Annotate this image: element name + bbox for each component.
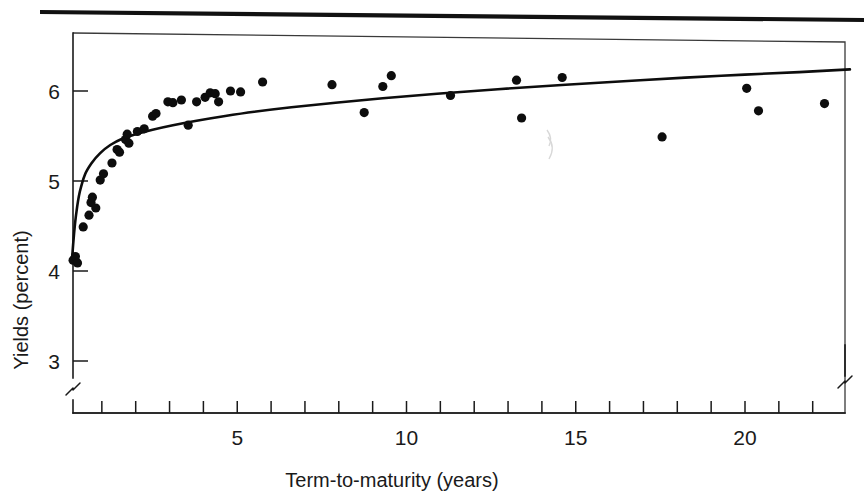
page-rule-top xyxy=(40,12,864,20)
data-point xyxy=(99,169,108,178)
data-point xyxy=(184,121,193,130)
y-axis-break-icon xyxy=(66,383,80,395)
x-tick-label-5: 5 xyxy=(231,426,243,449)
data-point xyxy=(258,77,267,86)
data-point xyxy=(754,106,763,115)
data-point xyxy=(88,193,97,202)
data-point xyxy=(558,73,567,82)
data-point xyxy=(387,71,396,80)
x-tick-group xyxy=(102,401,813,413)
data-point xyxy=(115,148,124,157)
data-point xyxy=(742,84,751,93)
data-point xyxy=(226,86,235,95)
y-tick-label-5: 5 xyxy=(48,170,60,193)
data-point xyxy=(211,89,220,98)
y-tick-label-6: 6 xyxy=(48,80,60,103)
data-point xyxy=(177,95,186,104)
x-axis-title: Term-to-maturity (years) xyxy=(285,469,498,491)
data-point xyxy=(517,113,526,122)
data-point xyxy=(168,98,177,107)
data-point xyxy=(360,108,369,117)
x-tick-label-20: 20 xyxy=(733,426,756,449)
y-tick-label-3: 3 xyxy=(48,350,60,373)
data-point xyxy=(91,203,100,212)
data-point xyxy=(107,158,116,167)
plot-frame xyxy=(73,33,845,413)
x-tick-label-15: 15 xyxy=(564,426,587,449)
data-point xyxy=(124,139,133,148)
data-point xyxy=(327,80,336,89)
fitted-yield-curve xyxy=(72,69,850,258)
x-tick-label-10: 10 xyxy=(395,426,418,449)
data-point xyxy=(84,211,93,220)
data-point xyxy=(512,76,521,85)
yield-curve-chart: 6 5 4 3 Yields (percent) 5101520 Term-to… xyxy=(0,0,864,499)
data-point xyxy=(79,222,88,231)
data-point xyxy=(73,258,82,267)
data-point xyxy=(658,132,667,141)
data-point xyxy=(151,109,160,118)
data-point xyxy=(123,130,132,139)
scatter-points-group xyxy=(69,71,830,267)
data-point xyxy=(140,124,149,133)
data-point xyxy=(446,91,455,100)
y-tick-label-4: 4 xyxy=(48,260,60,283)
data-point xyxy=(820,99,829,108)
figure-container: 6 5 4 3 Yields (percent) 5101520 Term-to… xyxy=(0,0,864,499)
data-point xyxy=(192,97,201,106)
data-point xyxy=(214,97,223,106)
scan-smudge-b xyxy=(548,137,552,159)
x-tick-label-group: 5101520 xyxy=(231,426,756,449)
y-axis-title: Yields (percent) xyxy=(10,230,32,369)
data-point xyxy=(236,87,245,96)
data-point xyxy=(378,82,387,91)
